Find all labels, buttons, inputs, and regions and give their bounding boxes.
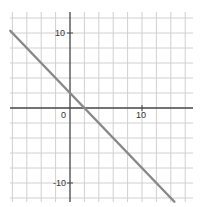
origin-label: 0 (61, 110, 66, 120)
line-graph (10, 31, 174, 202)
y-tick-label-10: 10 (55, 28, 65, 38)
axes (10, 12, 193, 202)
coordinate-plane: 10 0 10 -10 (0, 0, 202, 207)
line-series (10, 31, 174, 202)
grid-lines (10, 12, 193, 202)
x-tick-label-10: 10 (136, 110, 146, 120)
y-tick-label-neg-10: -10 (53, 178, 66, 188)
